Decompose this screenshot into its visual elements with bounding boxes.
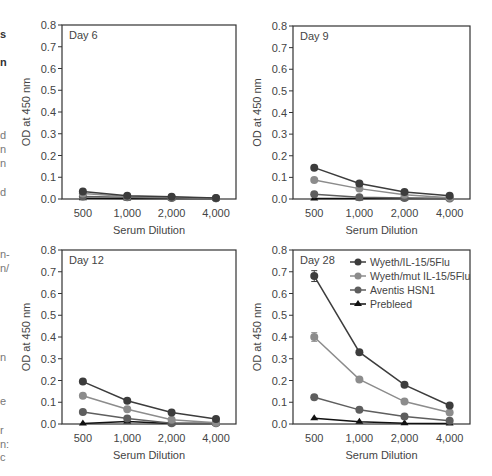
legend-label: Wyeth/mut IL-15/5Flu bbox=[370, 270, 470, 282]
legend-circle-icon bbox=[355, 259, 362, 266]
y-tick-label: 0.8 bbox=[41, 19, 56, 31]
circle-marker-icon bbox=[401, 188, 409, 196]
series-wyeth-mut-il-15-5flu bbox=[310, 333, 453, 417]
legend-circle-icon bbox=[355, 287, 362, 294]
circle-marker-icon bbox=[310, 190, 318, 198]
y-tick-label: 0.7 bbox=[41, 266, 56, 278]
circle-marker-icon bbox=[168, 416, 176, 424]
y-tick-label: 0.2 bbox=[272, 375, 287, 387]
circle-marker-icon bbox=[446, 417, 454, 425]
x-tick-label: 1,000 bbox=[346, 207, 374, 219]
y-tick-label: 0.0 bbox=[272, 193, 287, 205]
x-tick-label: 2,000 bbox=[391, 432, 419, 444]
y-tick-label: 0.6 bbox=[272, 288, 287, 300]
x-tick-label: 4,000 bbox=[202, 432, 230, 444]
circle-marker-icon bbox=[79, 187, 87, 195]
y-tick-label: 0.6 bbox=[41, 288, 56, 300]
circle-marker-icon bbox=[355, 406, 363, 414]
x-tick-label: 4,000 bbox=[436, 207, 464, 219]
plot-area-frame bbox=[62, 25, 236, 199]
circle-marker-icon bbox=[123, 192, 131, 200]
chart-legend: Wyeth/IL-15/5FluWyeth/mut IL-15/5FluAven… bbox=[350, 256, 470, 310]
plot-area-frame bbox=[293, 26, 470, 199]
circle-marker-icon bbox=[310, 393, 318, 401]
legend-circle-icon bbox=[355, 273, 362, 280]
y-axis-label: OD at 450 nm bbox=[20, 303, 32, 371]
chart-panel-day28: 0.00.10.20.30.40.50.60.70.85001,0002,000… bbox=[246, 238, 492, 476]
line-chart-day9: 0.00.10.20.30.40.50.60.70.85001,0002,000… bbox=[246, 0, 492, 238]
y-tick-label: 0.2 bbox=[41, 150, 56, 162]
y-tick-label: 0.2 bbox=[272, 150, 287, 162]
y-tick-label: 0.7 bbox=[41, 41, 56, 53]
x-tick-label: 2,000 bbox=[391, 207, 419, 219]
y-tick-label: 0.5 bbox=[272, 85, 287, 97]
circle-marker-icon bbox=[446, 402, 454, 410]
x-tick-label: 1,000 bbox=[113, 207, 141, 219]
x-tick-label: 500 bbox=[74, 207, 92, 219]
chart-panel-day9: 0.00.10.20.30.40.50.60.70.85001,0002,000… bbox=[246, 0, 492, 238]
triangle-marker-icon bbox=[79, 420, 87, 426]
circle-marker-icon bbox=[310, 272, 318, 280]
y-tick-label: 0.1 bbox=[272, 396, 287, 408]
circle-marker-icon bbox=[355, 375, 363, 383]
series-wyeth-il-15-5flu bbox=[310, 164, 453, 200]
circle-marker-icon bbox=[310, 176, 318, 184]
y-tick-label: 0.5 bbox=[41, 84, 56, 96]
circle-marker-icon bbox=[212, 415, 220, 423]
x-tick-label: 4,000 bbox=[436, 432, 464, 444]
circle-marker-icon bbox=[168, 408, 176, 416]
circle-marker-icon bbox=[355, 193, 363, 201]
circle-marker-icon bbox=[355, 348, 363, 356]
circle-marker-icon bbox=[401, 381, 409, 389]
y-tick-label: 0.3 bbox=[272, 353, 287, 365]
y-tick-label: 0.0 bbox=[41, 193, 56, 205]
y-tick-label: 0.3 bbox=[41, 128, 56, 140]
x-axis-label: Serum Dilution bbox=[345, 449, 417, 461]
x-tick-label: 500 bbox=[74, 432, 92, 444]
chart-title: Day 6 bbox=[69, 29, 98, 41]
line-chart-day28: 0.00.10.20.30.40.50.60.70.85001,0002,000… bbox=[246, 238, 492, 476]
y-tick-label: 0.7 bbox=[272, 266, 287, 278]
y-tick-label: 0.4 bbox=[41, 331, 56, 343]
y-tick-label: 0.3 bbox=[272, 128, 287, 140]
legend-label: Prebleed bbox=[370, 298, 412, 310]
x-tick-label: 1,000 bbox=[346, 432, 374, 444]
chart-panel-day6: 0.00.10.20.30.40.50.60.70.85001,0002,000… bbox=[0, 0, 246, 238]
y-tick-label: 0.4 bbox=[41, 106, 56, 118]
y-tick-label: 0.2 bbox=[41, 375, 56, 387]
y-tick-label: 0.3 bbox=[41, 353, 56, 365]
circle-marker-icon bbox=[79, 392, 87, 400]
circle-marker-icon bbox=[401, 412, 409, 420]
circle-marker-icon bbox=[355, 179, 363, 187]
y-tick-label: 0.7 bbox=[272, 42, 287, 54]
y-axis-label: OD at 450 nm bbox=[20, 78, 32, 146]
x-axis-label: Serum Dilution bbox=[113, 224, 185, 236]
chart-title: Day 9 bbox=[300, 30, 329, 42]
circle-marker-icon bbox=[446, 408, 454, 416]
x-tick-label: 4,000 bbox=[202, 207, 230, 219]
x-tick-label: 1,000 bbox=[113, 432, 141, 444]
y-tick-label: 0.5 bbox=[41, 309, 56, 321]
y-tick-label: 0.0 bbox=[272, 418, 287, 430]
circle-marker-icon bbox=[310, 333, 318, 341]
line-chart-day12: 0.00.10.20.30.40.50.60.70.85001,0002,000… bbox=[0, 238, 246, 476]
y-tick-label: 0.1 bbox=[41, 171, 56, 183]
circle-marker-icon bbox=[310, 164, 318, 172]
line-chart-day6: 0.00.10.20.30.40.50.60.70.85001,0002,000… bbox=[0, 0, 246, 238]
legend-label: Wyeth/IL-15/5Flu bbox=[370, 256, 450, 268]
circle-marker-icon bbox=[123, 415, 131, 423]
x-axis-label: Serum Dilution bbox=[113, 449, 185, 461]
circle-marker-icon bbox=[401, 398, 409, 406]
chart-panel-day12: 0.00.10.20.30.40.50.60.70.85001,0002,000… bbox=[0, 238, 246, 476]
x-tick-label: 500 bbox=[305, 432, 323, 444]
triangle-marker-icon bbox=[310, 414, 318, 420]
legend-label: Aventis HSN1 bbox=[370, 284, 435, 296]
circle-marker-icon bbox=[446, 192, 454, 200]
circle-marker-icon bbox=[168, 193, 176, 201]
triangle-marker-icon bbox=[355, 418, 363, 424]
x-tick-label: 500 bbox=[305, 207, 323, 219]
y-tick-label: 0.8 bbox=[272, 20, 287, 32]
y-tick-label: 0.6 bbox=[41, 63, 56, 75]
circle-marker-icon bbox=[79, 378, 87, 386]
y-tick-label: 0.6 bbox=[272, 63, 287, 75]
